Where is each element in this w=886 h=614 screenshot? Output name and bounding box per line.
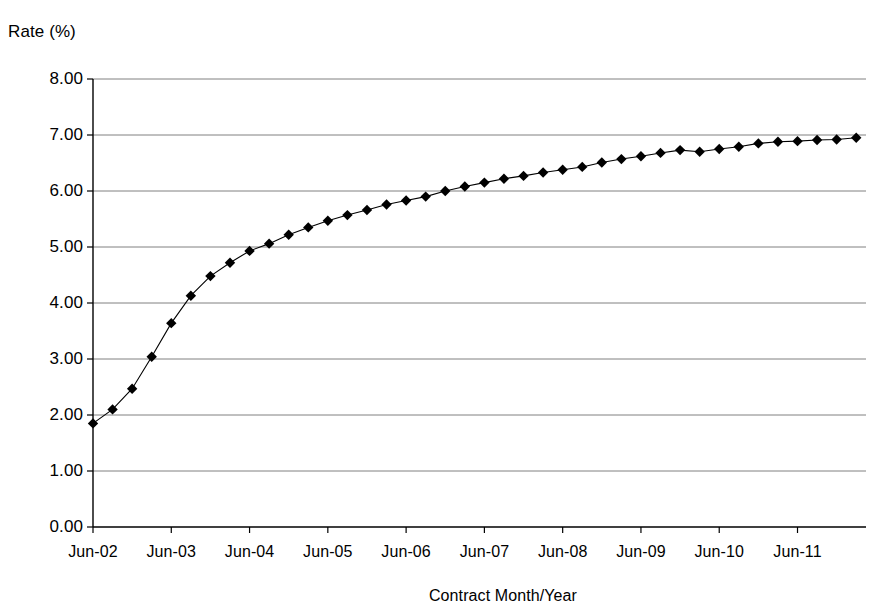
data-point-marker: [460, 181, 470, 191]
data-point-marker: [440, 186, 450, 196]
data-point-marker: [342, 210, 352, 220]
data-point-marker: [694, 147, 704, 157]
data-point-marker: [831, 134, 841, 144]
x-tick-label: Jun-09: [596, 543, 686, 561]
y-tick-label: 8.00: [23, 70, 83, 87]
data-point-marker: [753, 138, 763, 148]
data-point-marker: [303, 222, 313, 232]
data-point-marker: [381, 199, 391, 209]
x-tick-label: Jun-05: [283, 543, 373, 561]
data-point-marker: [714, 144, 724, 154]
x-tick-label: Jun-06: [361, 543, 451, 561]
data-point-marker: [225, 257, 235, 267]
data-point-marker: [362, 205, 372, 215]
data-point-marker: [420, 191, 430, 201]
data-series-group: [93, 138, 856, 424]
rate-curve-chart: Rate (%) 0.001.002.003.004.005.006.007.0…: [0, 0, 886, 614]
x-tick-label: Jun-04: [205, 543, 295, 561]
data-point-marker: [401, 195, 411, 205]
data-point-marker: [323, 215, 333, 225]
x-tick-label: Jun-11: [753, 543, 843, 561]
y-tick-label: 6.00: [23, 182, 83, 199]
data-point-marker: [792, 136, 802, 146]
x-tick-label: Jun-07: [439, 543, 529, 561]
data-point-marker: [538, 167, 548, 177]
data-point-marker: [812, 135, 822, 145]
data-point-marker: [557, 165, 567, 175]
x-tick-label: Jun-03: [126, 543, 216, 561]
y-tick-label: 5.00: [23, 238, 83, 255]
y-tick-label: 7.00: [23, 126, 83, 143]
data-point-marker: [597, 157, 607, 167]
y-tick-label: 4.00: [23, 294, 83, 311]
data-point-marker: [851, 133, 861, 143]
data-point-marker: [577, 162, 587, 172]
data-point-marker: [616, 154, 626, 164]
y-tick-marks-group: [87, 79, 93, 527]
x-tick-label: Jun-10: [674, 543, 764, 561]
y-tick-label: 0.00: [23, 518, 83, 535]
data-markers-group: [88, 133, 862, 429]
data-point-marker: [499, 173, 509, 183]
data-point-marker: [675, 145, 685, 155]
data-point-marker: [518, 171, 528, 181]
data-point-marker: [479, 177, 489, 187]
y-tick-label: 2.00: [23, 406, 83, 423]
x-tick-label: Jun-08: [518, 543, 608, 561]
data-point-marker: [88, 418, 98, 428]
data-point-marker: [734, 142, 744, 152]
x-axis-title: Contract Month/Year: [0, 586, 886, 606]
data-point-marker: [655, 148, 665, 158]
data-point-marker: [166, 318, 176, 328]
x-tick-marks-group: [93, 527, 798, 533]
data-point-marker: [147, 352, 157, 362]
plot-canvas: [0, 0, 886, 614]
x-axis-title-text: Contract Month/Year: [429, 587, 577, 604]
x-tick-label: Jun-02: [48, 543, 138, 561]
data-point-marker: [636, 151, 646, 161]
data-point-marker: [773, 137, 783, 147]
data-point-marker: [283, 229, 293, 239]
y-tick-label: 1.00: [23, 462, 83, 479]
series-line: [93, 138, 856, 424]
y-tick-label: 3.00: [23, 350, 83, 367]
